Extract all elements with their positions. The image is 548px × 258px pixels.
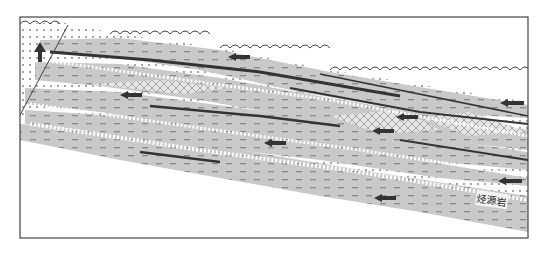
- geology-cross-section: [0, 0, 548, 258]
